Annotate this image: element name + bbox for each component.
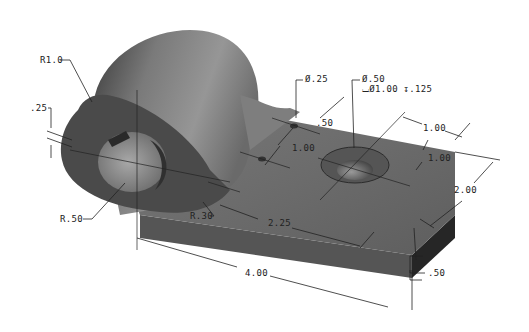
label-fillet-radius: R.30 [190, 211, 213, 221]
label-cbore-from-edge: 1.00 [428, 153, 451, 163]
counterbore-hole [321, 147, 389, 183]
label-hole-spacing-x: .50 [316, 118, 333, 128]
label-hole-spacing-y: 1.00 [292, 143, 315, 153]
label-bore-radius: R.50 [60, 214, 83, 224]
label-small-hole-dia: Ø.25 [305, 74, 328, 84]
label-hole-from-center: 2.25 [268, 218, 291, 228]
label-plate-thickness: .50 [428, 268, 445, 278]
label-cbore-hole-dia: Ø.50 [362, 74, 385, 84]
label-overall-length: 4.00 [245, 268, 268, 278]
label-slot-width: .25 [30, 103, 47, 113]
label-cbore-from-end: 1.00 [423, 123, 446, 133]
label-plate-width: 2.00 [454, 185, 477, 195]
label-cbore-spec: ⌴Ø1.00 ↧.125 [362, 84, 432, 94]
isometric-part-drawing: R1.0 .25 R.50 R.30 Ø.25 Ø.50 ⌴Ø1.00 ↧.12… [0, 0, 529, 332]
label-r1: R1.0 [40, 55, 63, 65]
bore-hole [98, 132, 166, 192]
